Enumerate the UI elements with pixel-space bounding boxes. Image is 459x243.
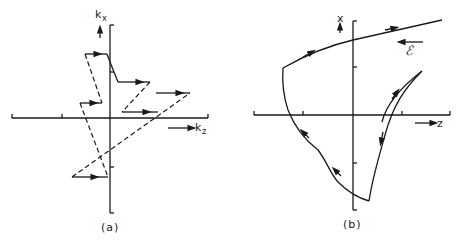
panel-b-trajectory bbox=[283, 20, 442, 201]
upper-trajectory bbox=[283, 20, 442, 68]
path-arrow-icon bbox=[381, 132, 383, 142]
panel-a-caption: (a) bbox=[101, 221, 119, 234]
dashed-jump bbox=[80, 103, 108, 177]
field-label: ℰ bbox=[401, 42, 423, 58]
panel-a-trajectory bbox=[72, 54, 190, 177]
dashed-jump bbox=[85, 54, 102, 103]
svg-text:ℰ: ℰ bbox=[405, 43, 414, 58]
path-arrow-icon bbox=[335, 170, 341, 176]
panel-a-axes bbox=[12, 25, 208, 213]
svg-text:z: z bbox=[437, 117, 443, 130]
svg-text:x: x bbox=[102, 14, 107, 23]
dashed-jump bbox=[72, 93, 190, 177]
left-trajectory bbox=[283, 68, 369, 201]
panel-b: x z ℰ (b) bbox=[254, 12, 450, 231]
path-arrow-icon bbox=[385, 28, 395, 30]
panel-b-axes bbox=[254, 21, 450, 210]
z-label: z bbox=[415, 117, 443, 130]
dashed-jump bbox=[122, 82, 150, 112]
right-trajectory bbox=[369, 71, 422, 201]
panel-a: k x k z bbox=[12, 8, 208, 234]
figure: k x k z bbox=[0, 0, 459, 243]
panel-b-caption: (b) bbox=[343, 218, 362, 231]
kz-label: k z bbox=[168, 121, 206, 136]
svg-text:x: x bbox=[337, 12, 344, 25]
path-segment bbox=[107, 54, 118, 82]
svg-text:z: z bbox=[202, 127, 206, 136]
svg-text:k: k bbox=[195, 121, 202, 134]
kx-label: k x bbox=[95, 8, 107, 38]
svg-text:k: k bbox=[95, 8, 102, 21]
x-label: x bbox=[337, 12, 344, 33]
